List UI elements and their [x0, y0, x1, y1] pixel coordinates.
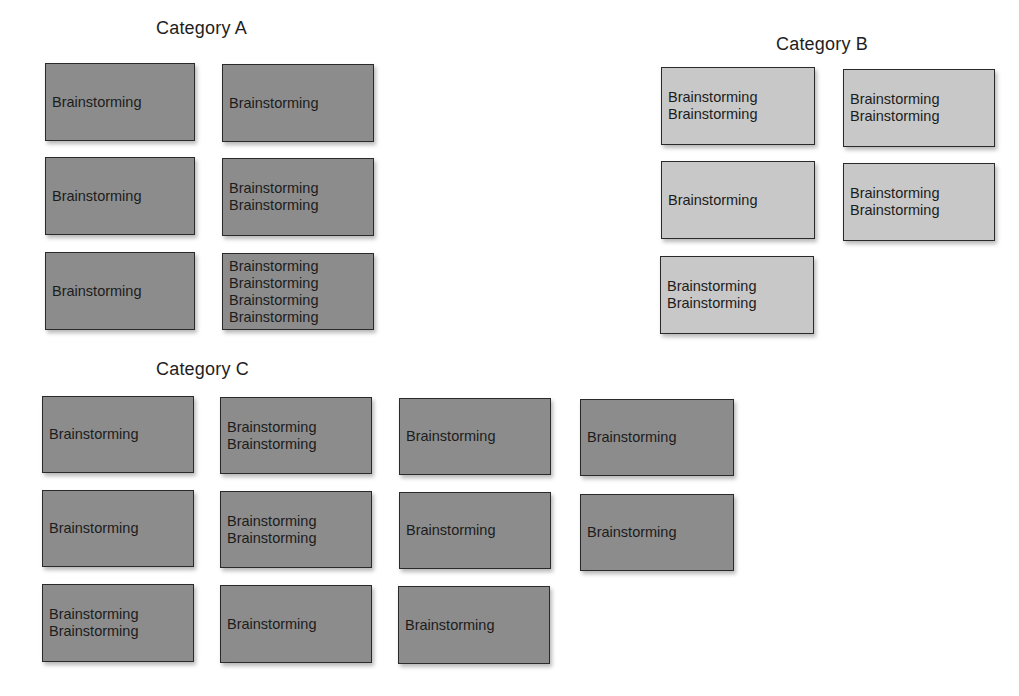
card-text: Brainstorming: [667, 295, 813, 312]
category-a-card[interactable]: BrainstormingBrainstormingBrainstormingB…: [222, 253, 374, 330]
card-text: Brainstorming: [229, 258, 373, 275]
card-text: Brainstorming: [229, 95, 373, 112]
card-text: Brainstorming: [227, 419, 371, 436]
card-text: Brainstorming: [49, 623, 193, 640]
category-b-card[interactable]: BrainstormingBrainstorming: [843, 163, 995, 241]
category-a-title: Category A: [156, 18, 247, 39]
category-c-title: Category C: [156, 359, 249, 380]
card-text: Brainstorming: [587, 429, 733, 446]
category-b-card[interactable]: BrainstormingBrainstorming: [661, 67, 815, 145]
card-text: Brainstorming: [668, 89, 814, 106]
category-a-card[interactable]: Brainstorming: [45, 63, 195, 141]
category-c-card[interactable]: BrainstormingBrainstorming: [220, 491, 372, 568]
card-text: Brainstorming: [587, 524, 733, 541]
card-text: Brainstorming: [52, 283, 194, 300]
card-text: Brainstorming: [49, 520, 193, 537]
card-text: Brainstorming: [227, 530, 371, 547]
card-text: Brainstorming: [850, 108, 994, 125]
category-c-card[interactable]: BrainstormingBrainstorming: [42, 584, 194, 662]
card-text: Brainstorming: [850, 185, 994, 202]
card-text: Brainstorming: [227, 616, 371, 633]
card-text: Brainstorming: [850, 202, 994, 219]
card-text: Brainstorming: [52, 94, 194, 111]
category-c-card[interactable]: Brainstorming: [398, 586, 550, 664]
category-c-card[interactable]: Brainstorming: [42, 490, 194, 567]
category-c-card[interactable]: Brainstorming: [580, 494, 734, 571]
card-text: Brainstorming: [229, 275, 373, 292]
card-text: Brainstorming: [667, 278, 813, 295]
card-text: Brainstorming: [406, 428, 550, 445]
card-text: Brainstorming: [405, 617, 549, 634]
category-b-title: Category B: [776, 34, 868, 55]
card-text: Brainstorming: [229, 180, 373, 197]
card-text: Brainstorming: [229, 292, 373, 309]
card-text: Brainstorming: [668, 106, 814, 123]
category-b-card[interactable]: BrainstormingBrainstorming: [660, 256, 814, 334]
category-c-card[interactable]: Brainstorming: [399, 492, 551, 569]
card-text: Brainstorming: [49, 426, 193, 443]
card-text: Brainstorming: [49, 606, 193, 623]
category-a-card[interactable]: Brainstorming: [45, 252, 195, 330]
category-c-card[interactable]: Brainstorming: [42, 396, 194, 473]
card-text: Brainstorming: [668, 192, 814, 209]
card-text: Brainstorming: [52, 188, 194, 205]
category-b-card[interactable]: Brainstorming: [661, 161, 815, 239]
category-c-card[interactable]: BrainstormingBrainstorming: [220, 397, 372, 474]
category-c-card[interactable]: Brainstorming: [220, 585, 372, 663]
category-a-card[interactable]: Brainstorming: [222, 64, 374, 142]
card-text: Brainstorming: [227, 513, 371, 530]
category-a-card[interactable]: BrainstormingBrainstorming: [222, 158, 374, 236]
category-c-card[interactable]: Brainstorming: [399, 398, 551, 475]
card-text: Brainstorming: [406, 522, 550, 539]
category-b-card[interactable]: BrainstormingBrainstorming: [843, 69, 995, 147]
card-text: Brainstorming: [229, 197, 373, 214]
category-c-card[interactable]: Brainstorming: [580, 399, 734, 476]
card-text: Brainstorming: [227, 436, 371, 453]
category-a-card[interactable]: Brainstorming: [45, 157, 195, 235]
card-text: Brainstorming: [850, 91, 994, 108]
card-text: Brainstorming: [229, 309, 373, 326]
